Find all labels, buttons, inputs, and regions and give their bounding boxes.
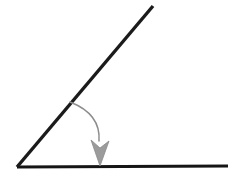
angle-diagram-canvas	[0, 0, 240, 182]
diagram-background	[0, 0, 240, 182]
angle-diagram-svg	[0, 0, 240, 182]
horizontal-ray	[17, 166, 228, 167]
